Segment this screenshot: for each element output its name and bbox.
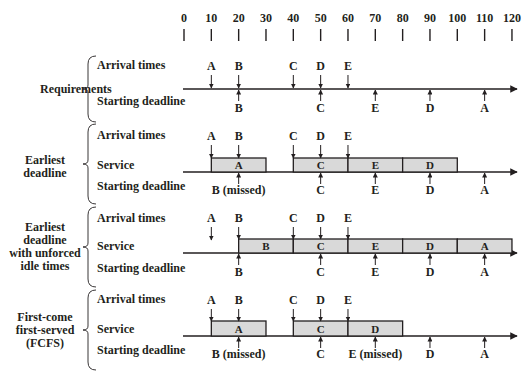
axis-tick-label: 100 — [448, 11, 466, 25]
deadline-label: C — [316, 183, 325, 197]
service-block-label: D — [426, 159, 434, 171]
group-label: idle times — [21, 259, 70, 273]
row-label-deadline: Starting deadline — [97, 261, 186, 275]
arrival-label: C — [289, 211, 298, 225]
arrival-label: B — [235, 59, 243, 73]
deadline-label: C — [316, 265, 325, 279]
arrival-label: D — [316, 211, 325, 225]
service-block-label: A — [235, 323, 243, 335]
schedule-sections: RequirementsArrival timesStarting deadli… — [9, 56, 517, 370]
row-label-arrival: Arrival times — [97, 211, 166, 225]
section-3: Earliestdeadlinewith unforcedidle timesA… — [9, 207, 517, 287]
deadline-label: B (missed) — [212, 347, 266, 361]
axis-tick-label: 90 — [424, 11, 436, 25]
service-block-label: C — [317, 323, 325, 335]
arrival-label: E — [344, 129, 352, 143]
arrival-label: E — [344, 211, 352, 225]
group-label: first-served — [16, 323, 75, 337]
service-block-label: A — [235, 159, 243, 171]
time-axis: 0102030405060708090100110120 — [181, 11, 521, 41]
service-block-label: C — [317, 159, 325, 171]
row-label-deadline: Starting deadline — [97, 343, 186, 357]
arrival-label: A — [207, 129, 216, 143]
arrival-label: B — [235, 211, 243, 225]
deadline-label: D — [426, 183, 435, 197]
section-4: First-comefirst-served(FCFS)Arrival time… — [16, 290, 517, 370]
brace-icon — [83, 290, 96, 370]
service-block-label: A — [481, 240, 489, 252]
axis-tick-label: 40 — [287, 11, 299, 25]
group-label: deadline — [23, 233, 67, 247]
deadline-label: B (missed) — [212, 183, 266, 197]
axis-tick-label: 70 — [369, 11, 381, 25]
axis-tick-label: 10 — [205, 11, 217, 25]
arrival-label: C — [289, 293, 298, 307]
row-label-service: Service — [97, 322, 135, 336]
deadline-label: B — [235, 265, 243, 279]
arrival-label: D — [316, 129, 325, 143]
row-label-deadline: Starting deadline — [97, 179, 186, 193]
arrival-label: C — [289, 129, 298, 143]
section-2: EarliestdeadlineArrival timesServiceStar… — [23, 124, 517, 204]
service-block-label: E — [372, 240, 379, 252]
scheduling-timeline-diagram: 0102030405060708090100110120 Requirement… — [0, 0, 527, 377]
service-block-label: D — [426, 240, 434, 252]
row-label-deadline: Starting deadline — [97, 94, 186, 108]
row-label-service: Service — [97, 239, 135, 253]
row-label-arrival: Arrival times — [97, 292, 166, 306]
axis-tick-label: 60 — [342, 11, 354, 25]
row-label-service: Service — [97, 158, 135, 172]
group-label: Earliest — [25, 153, 65, 167]
brace-icon — [83, 207, 96, 287]
deadline-label: E — [371, 183, 379, 197]
group-label: Earliest — [25, 220, 65, 234]
row-label-arrival: Arrival times — [97, 128, 166, 142]
group-label: deadline — [23, 166, 67, 180]
arrival-label: E — [344, 59, 352, 73]
arrival-label: A — [207, 211, 216, 225]
arrival-label: B — [235, 129, 243, 143]
service-block-label: D — [371, 323, 379, 335]
axis-tick-label: 0 — [181, 11, 187, 25]
section-1: RequirementsArrival timesStarting deadli… — [40, 56, 517, 122]
deadline-label: A — [480, 347, 489, 361]
axis-tick-label: 30 — [260, 11, 272, 25]
group-label: (FCFS) — [26, 336, 64, 350]
axis-tick-label: 50 — [315, 11, 327, 25]
service-block-label: B — [262, 240, 270, 252]
arrival-label: A — [207, 59, 216, 73]
brace-icon — [83, 124, 96, 204]
axis-tick-label: 110 — [476, 11, 493, 25]
deadline-label: E — [371, 265, 379, 279]
deadline-label: A — [480, 265, 489, 279]
service-block-label: C — [317, 240, 325, 252]
deadline-label: C — [316, 101, 325, 115]
deadline-label: B — [235, 101, 243, 115]
deadline-label: A — [480, 183, 489, 197]
arrival-label: C — [289, 59, 298, 73]
row-label-arrival: Arrival times — [97, 58, 166, 72]
service-block-label: E — [372, 159, 379, 171]
deadline-label: D — [426, 347, 435, 361]
group-label: First-come — [17, 310, 73, 324]
group-label: with unforced — [9, 246, 81, 260]
axis-tick-label: 20 — [233, 11, 245, 25]
arrival-label: A — [207, 293, 216, 307]
deadline-label: D — [426, 101, 435, 115]
arrival-label: D — [316, 59, 325, 73]
deadline-label: D — [426, 265, 435, 279]
deadline-label: E (missed) — [348, 347, 402, 361]
arrival-label: B — [235, 293, 243, 307]
axis-tick-label: 80 — [397, 11, 409, 25]
arrival-label: D — [316, 293, 325, 307]
axis-tick-label: 120 — [503, 11, 521, 25]
deadline-label: E — [371, 101, 379, 115]
deadline-label: A — [480, 101, 489, 115]
arrival-label: E — [344, 293, 352, 307]
deadline-label: C — [316, 347, 325, 361]
